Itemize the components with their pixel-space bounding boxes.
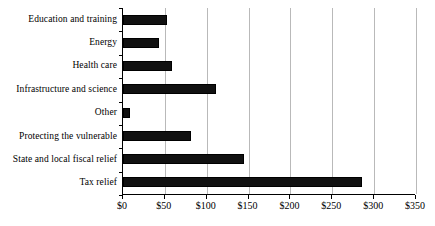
category-label: Other [95, 108, 117, 118]
value-axis-tick [248, 195, 249, 199]
value-axis-tick [331, 195, 332, 199]
bar [123, 108, 130, 118]
bar [123, 177, 362, 187]
value-axis-tick-label: $300 [363, 200, 383, 211]
value-axis-tick-label: $100 [196, 200, 216, 211]
bar-row [123, 101, 415, 124]
bar-row [123, 78, 415, 101]
category-label: Health care [72, 61, 117, 71]
value-axis-tick-label: $0 [117, 200, 127, 211]
category-label: Infrastructure and science [16, 85, 117, 95]
value-axis-tick [415, 195, 416, 199]
bar [123, 154, 244, 164]
gridline [416, 8, 417, 194]
bar-row [123, 31, 415, 54]
bar-row [123, 8, 415, 31]
bar-row [123, 171, 415, 194]
category-label-row: Energy [0, 31, 120, 54]
category-axis: Education and training Energy Health car… [0, 8, 120, 195]
bar-row [123, 124, 415, 147]
bar [123, 15, 167, 25]
category-label-row: Protecting the vulnerable [0, 125, 120, 148]
category-label-row: Other [0, 102, 120, 125]
bar-chart: Education and training Energy Health car… [0, 0, 435, 226]
value-axis: $0$50$100$150$200$250$300$350 [122, 195, 415, 226]
value-axis-tick [289, 195, 290, 199]
bar [123, 131, 191, 141]
value-axis-tick-label: $250 [321, 200, 341, 211]
value-axis-tick-label: $150 [238, 200, 258, 211]
category-label-row: State and local fiscal relief [0, 148, 120, 171]
category-label: Energy [89, 38, 117, 48]
plot-area [122, 8, 415, 195]
category-label-row: Education and training [0, 8, 120, 31]
value-axis-tick [373, 195, 374, 199]
value-axis-tick-label: $200 [279, 200, 299, 211]
category-label: Education and training [28, 15, 117, 25]
category-label-row: Tax relief [0, 172, 120, 195]
category-label-row: Infrastructure and science [0, 78, 120, 101]
bars-layer [123, 8, 415, 194]
value-axis-tick-label: $350 [405, 200, 425, 211]
value-axis-tick [206, 195, 207, 199]
category-label-row: Health care [0, 55, 120, 78]
bar-row [123, 55, 415, 78]
category-label: Protecting the vulnerable [19, 132, 117, 142]
bar [123, 84, 216, 94]
category-label: Tax relief [79, 178, 117, 188]
bar [123, 38, 159, 48]
bar-row [123, 148, 415, 171]
value-axis-tick [122, 195, 123, 199]
value-axis-tick [164, 195, 165, 199]
bar [123, 61, 172, 71]
value-axis-tick-label: $50 [156, 200, 171, 211]
category-label: State and local fiscal relief [13, 155, 117, 165]
